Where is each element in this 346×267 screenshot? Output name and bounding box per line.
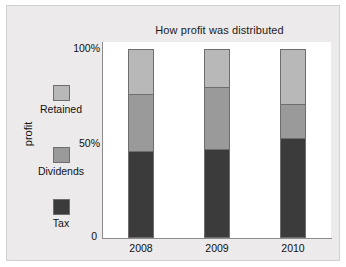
legend-swatch-dividends [53,147,70,163]
bar-segment-tax-2010 [280,138,306,238]
page-title: How profit was distributed [102,24,337,36]
y-axis-tick-0: 0 [57,230,97,242]
legend-label-dividends: Dividends [24,165,98,177]
chart-screenshot: How profit was distributed 100% 50% 0 pr… [0,0,346,267]
chart-panel: How profit was distributed 100% 50% 0 pr… [6,5,340,261]
y-axis-line [102,42,103,239]
x-axis-tick-2010: 2010 [263,242,323,254]
bar-segment-retained-2008 [128,49,154,94]
bar-group-2008 [128,49,154,238]
bar-segment-dividends-2009 [204,87,230,149]
y-axis-tick-100: 100% [57,42,100,54]
legend-item-tax: Tax [24,199,98,229]
bar-segment-dividends-2010 [280,104,306,138]
legend-swatch-retained [53,85,70,101]
bar-segment-retained-2009 [204,49,230,87]
legend-item-dividends: Dividends [24,147,98,177]
legend-label-tax: Tax [24,217,98,229]
x-axis-tick-2009: 2009 [187,242,247,254]
x-axis-tick-2008: 2008 [111,242,171,254]
bar-segment-tax-2008 [128,151,154,238]
legend-label-retained: Retained [24,103,98,115]
bar-group-2010 [280,49,306,238]
bar-segment-dividends-2008 [128,94,154,151]
legend-swatch-tax [53,199,70,215]
bar-segment-tax-2009 [204,149,230,238]
bar-segment-retained-2010 [280,49,306,104]
x-axis-line [102,238,332,239]
bar-group-2009 [204,49,230,238]
legend-item-retained: Retained [24,85,98,115]
